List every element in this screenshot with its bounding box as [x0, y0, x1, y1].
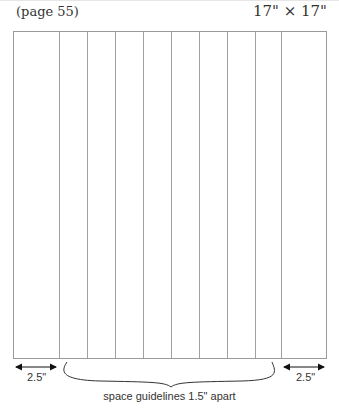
quilt-block-diagram	[0, 0, 339, 409]
right-margin-label: 2.5"	[296, 371, 315, 383]
spacing-note: space guidelines 1.5" apart	[0, 390, 339, 402]
spacing-brace	[64, 362, 275, 387]
guidelines	[60, 31, 282, 358]
block-outline	[14, 32, 327, 359]
left-margin-label: 2.5"	[27, 371, 46, 383]
